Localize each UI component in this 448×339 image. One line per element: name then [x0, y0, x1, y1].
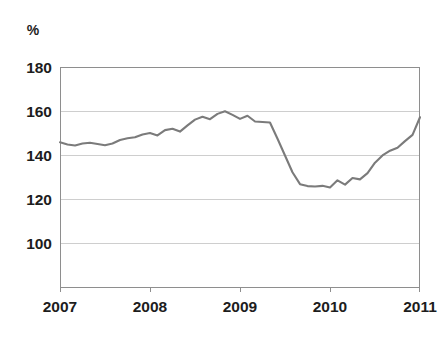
line-chart: % 180 160 140 120 100 [0, 0, 448, 339]
chart-background [0, 0, 448, 339]
x-tick-label-2009: 2009 [223, 298, 258, 315]
chart-container: % 180 160 140 120 100 [0, 0, 448, 339]
y-tick-label-180: 180 [26, 59, 52, 76]
y-axis-unit-label: % [27, 22, 40, 38]
y-tick-label-160: 160 [26, 103, 52, 120]
x-tick-label-2007: 2007 [43, 298, 77, 315]
y-tick-label-140: 140 [26, 147, 52, 164]
x-tick-label-2010: 2010 [313, 298, 347, 315]
x-tick-label-2008: 2008 [133, 298, 168, 315]
y-tick-label-120: 120 [26, 191, 52, 208]
y-tick-label-100: 100 [26, 235, 52, 252]
x-tick-label-2011: 2011 [403, 298, 437, 315]
